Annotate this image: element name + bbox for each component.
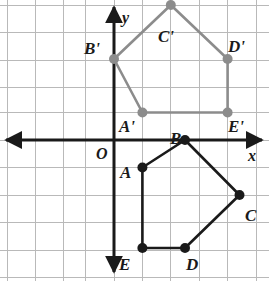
vertex-label-E: E bbox=[119, 256, 130, 273]
vertex-label-C': C' bbox=[158, 28, 174, 45]
pentagon-preimage bbox=[137, 135, 244, 253]
vertex-label-D': D' bbox=[228, 38, 245, 55]
vertex-point-D bbox=[180, 243, 190, 253]
origin-label: O bbox=[96, 146, 108, 162]
vertex-label-A: A bbox=[120, 164, 131, 181]
coordinate-plane-figure: ABCDEA'B'C'D'E'Oxy bbox=[0, 0, 269, 281]
vertex-label-E': E' bbox=[228, 118, 244, 135]
vertex-label-B': B' bbox=[84, 40, 100, 57]
vertex-label-C: C bbox=[245, 207, 256, 224]
vertex-label-B: B bbox=[170, 130, 181, 147]
vertex-point-A bbox=[137, 163, 147, 173]
vertex-point-C bbox=[235, 190, 245, 200]
axes bbox=[6, 7, 262, 272]
vertex-point-E bbox=[137, 243, 147, 253]
pentagon-preimage-outline bbox=[142, 140, 239, 248]
vertex-point-A' bbox=[137, 108, 147, 118]
y-axis-label: y bbox=[122, 10, 129, 26]
x-axis-label: x bbox=[248, 148, 256, 164]
vertex-label-A': A' bbox=[119, 118, 135, 135]
vertex-point-B bbox=[180, 135, 190, 145]
vertex-label-D: D bbox=[186, 256, 198, 273]
vertex-point-C' bbox=[166, 0, 176, 10]
vertex-point-B' bbox=[109, 54, 119, 64]
vertex-point-E' bbox=[223, 108, 233, 118]
